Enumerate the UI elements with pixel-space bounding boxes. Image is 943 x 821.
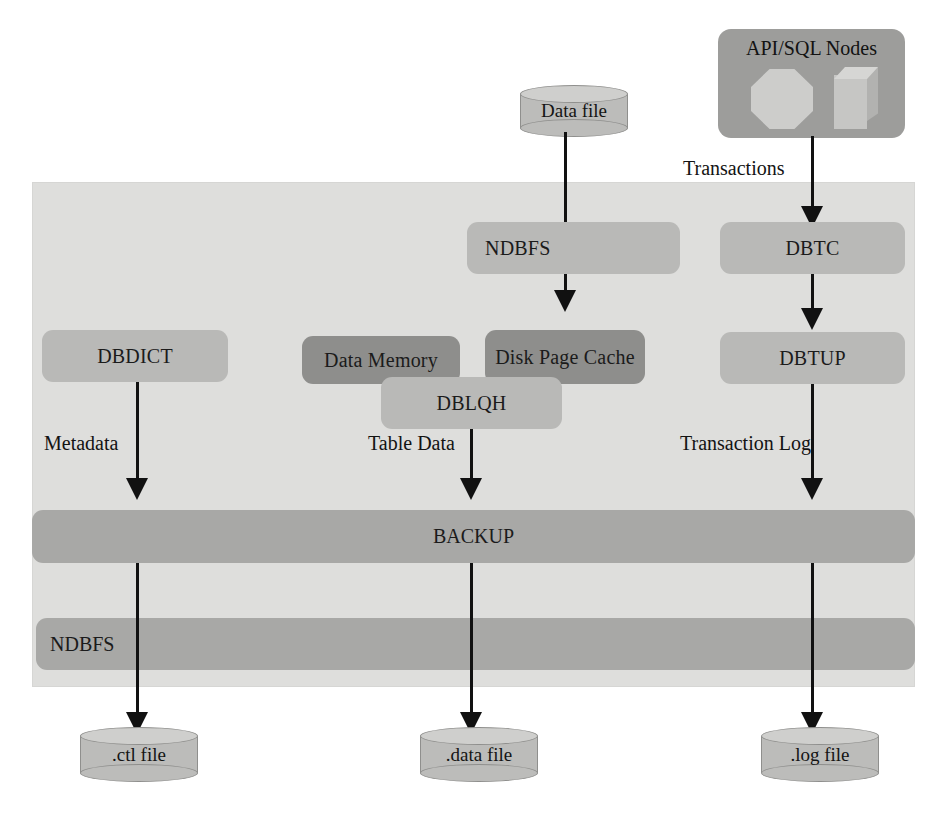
arrowhead-dbdict-to-backup [126,478,148,500]
block-dblqh[interactable]: DBLQH [381,377,562,429]
api-sql-nodes-label: API/SQL Nodes [718,37,905,60]
ctl-file-cylinder: .ctl file [80,727,198,782]
block-backup-label: BACKUP [32,525,915,548]
ctl-file-label: .ctl file [80,727,198,782]
arrowhead-to-dbtup [801,308,823,330]
cube-front-face [834,75,867,129]
connector-ndbfs-to-ctl [136,618,139,718]
block-ndbfs-top-label: NDBFS [485,238,550,258]
block-disk-page-cache[interactable]: Disk Page Cache [485,330,645,384]
log-file-cylinder: .log file [761,727,879,782]
octagon-node-icon [751,69,813,129]
block-dbdict[interactable]: DBDICT [42,330,228,382]
arrowhead-dbtup-to-backup [801,478,823,500]
block-dbtup-label: DBTUP [779,348,846,368]
edge-label-metadata: Metadata [44,432,118,455]
cube-node-icon [834,67,878,129]
block-ndbfs-top[interactable]: NDBFS [467,222,680,274]
connector-ndbfs-to-log [811,618,814,718]
connector-dbdict-to-backup [136,382,139,482]
block-dbtc[interactable]: DBTC [720,222,905,274]
block-backup[interactable]: BACKUP [32,510,915,563]
connector-ndbfs-to-data [470,618,473,718]
block-ndbfs-bottom[interactable]: NDBFS [36,618,915,670]
block-disk-page-cache-label: Disk Page Cache [495,347,635,367]
data-output-file-cylinder: .data file [420,727,538,782]
connector-api-to-dbtc [811,136,814,214]
api-sql-nodes-box: API/SQL Nodes [718,29,905,138]
block-ndbfs-bottom-label: NDBFS [36,633,114,656]
connector-dblqh-to-backup [470,429,473,482]
data-output-file-label: .data file [420,727,538,782]
block-dblqh-label: DBLQH [437,393,507,413]
edge-label-transactions: Transactions [683,157,784,180]
block-dbtup[interactable]: DBTUP [720,332,905,384]
data-file-cylinder: Data file [520,85,628,137]
connector-dbtc-to-dbtup [811,274,814,312]
block-data-memory-label: Data Memory [324,350,438,370]
block-dbtc-label: DBTC [785,238,839,258]
data-file-label: Data file [520,85,628,137]
arrowhead-to-disk-page-cache [554,290,576,312]
arrowhead-dblqh-to-backup [460,478,482,500]
diagram-canvas: Data file API/SQL Nodes Transactions NDB… [0,0,943,821]
edge-label-table-data: Table Data [368,432,455,455]
connector-dbtup-to-backup [811,384,814,482]
block-dbdict-label: DBDICT [97,346,173,366]
edge-label-transaction-log: Transaction Log [680,432,811,455]
log-file-label: .log file [761,727,879,782]
